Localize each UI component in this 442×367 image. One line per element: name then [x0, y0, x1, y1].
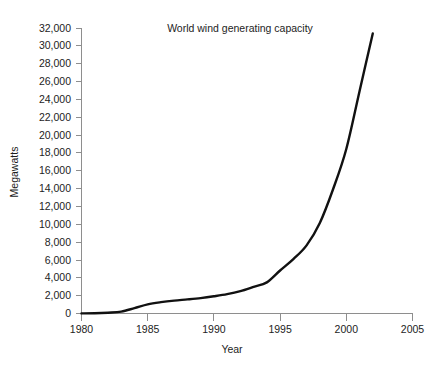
y-tick-label: 28,000: [39, 57, 71, 69]
y-tick-label: 18,000: [39, 146, 71, 158]
chart-page: World wind generating capacity: [0, 0, 442, 367]
y-tick-label: 4,000: [45, 271, 71, 283]
y-tick-label: 12,000: [39, 200, 71, 212]
x-axis-title: Year: [221, 343, 243, 355]
x-tick-label: 2000: [335, 323, 359, 335]
y-tick-label: 14,000: [39, 182, 71, 194]
x-tick-label: 1980: [70, 323, 94, 335]
y-tick-label: 2,000: [45, 289, 71, 301]
y-tick-label: 6,000: [45, 254, 71, 266]
y-tick-label: 8,000: [45, 236, 71, 248]
x-tick-label: 1990: [202, 323, 226, 335]
x-tick-label: 2005: [401, 323, 425, 335]
y-tick-label: 32,000: [39, 22, 71, 34]
chart-title: World wind generating capacity: [167, 22, 313, 34]
wind-capacity-line-chart: World wind generating capacity: [0, 0, 442, 367]
y-tick-label: 10,000: [39, 218, 71, 230]
y-tick-label: 20,000: [39, 129, 71, 141]
y-tick-label: 0: [65, 307, 71, 319]
x-tick-label: 1985: [136, 323, 160, 335]
y-tick-label: 16,000: [39, 164, 71, 176]
y-tick-label: 30,000: [39, 39, 71, 51]
x-tick-label: 1995: [268, 323, 292, 335]
y-tick-label: 26,000: [39, 75, 71, 87]
y-tick-label: 22,000: [39, 111, 71, 123]
y-axis-title: Megawatts: [8, 147, 20, 198]
y-tick-label: 24,000: [39, 93, 71, 105]
